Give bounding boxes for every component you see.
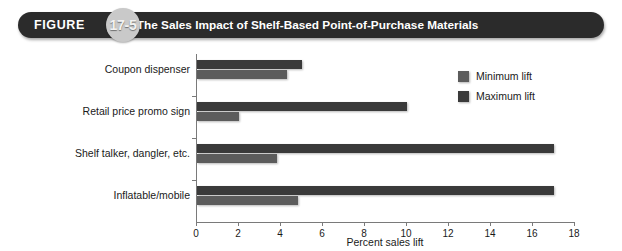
bar-maximum-lift	[197, 186, 554, 195]
x-axis-line	[196, 222, 574, 223]
bar-maximum-lift	[197, 144, 554, 153]
y-axis-tick	[192, 138, 196, 139]
figure-number-badge: 17-5	[106, 8, 140, 42]
legend-item: Minimum lift	[458, 70, 535, 82]
x-axis-tick	[196, 222, 197, 226]
category-label: Coupon dispenser	[0, 63, 190, 75]
chart-area: Coupon dispenserRetail price promo signS…	[0, 46, 622, 251]
legend-label: Minimum lift	[476, 70, 532, 82]
figure-word-label: FIGURE	[34, 18, 85, 32]
category-label: Shelf talker, dangler, etc.	[0, 147, 190, 159]
bar-maximum-lift	[197, 60, 302, 69]
x-axis-tick	[364, 222, 365, 226]
x-axis-tick	[280, 222, 281, 226]
x-axis-tick	[322, 222, 323, 226]
category-label: Retail price promo sign	[0, 105, 190, 117]
x-axis-tick	[490, 222, 491, 226]
legend-swatch-icon	[458, 91, 469, 102]
bar-minimum-lift	[197, 112, 239, 121]
bar-minimum-lift	[197, 196, 298, 205]
x-axis-tick	[532, 222, 533, 226]
x-axis-tick	[574, 222, 575, 226]
legend-swatch-icon	[458, 71, 469, 82]
y-axis-tick	[192, 180, 196, 181]
x-axis-title: Percent sales lift	[196, 236, 574, 248]
bar-minimum-lift	[197, 154, 277, 163]
bar-maximum-lift	[197, 102, 407, 111]
legend-label: Maximum lift	[476, 90, 535, 102]
chart-legend: Minimum liftMaximum lift	[458, 70, 535, 110]
x-axis-tick	[406, 222, 407, 226]
category-axis-labels: Coupon dispenserRetail price promo signS…	[0, 54, 190, 222]
x-axis-tick	[238, 222, 239, 226]
x-axis-tick	[448, 222, 449, 226]
y-axis-tick	[192, 96, 196, 97]
figure-header-banner: FIGURE 17-5 The Sales Impact of Shelf-Ba…	[18, 12, 604, 38]
figure-number-label: 17-5	[110, 17, 137, 33]
figure-title: The Sales Impact of Shelf-Based Point-of…	[137, 18, 479, 32]
category-label: Inflatable/mobile	[0, 189, 190, 201]
legend-item: Maximum lift	[458, 90, 535, 102]
bar-minimum-lift	[197, 70, 287, 79]
